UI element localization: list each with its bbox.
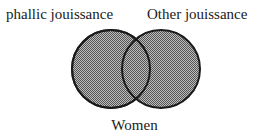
- women-label: Women: [0, 118, 269, 133]
- other-jouissance-circle: [122, 30, 200, 108]
- phallic-jouissance-label: phallic jouissance: [6, 7, 113, 22]
- other-jouissance-label: Other jouissance: [147, 7, 247, 22]
